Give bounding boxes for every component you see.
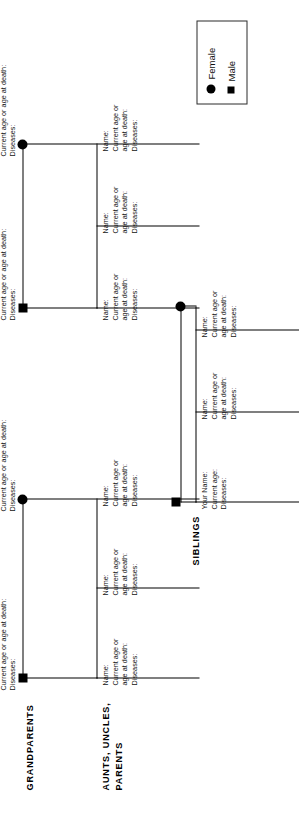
field-name-label: Name: bbox=[199, 367, 209, 419]
connector-couple-1-drop-left bbox=[22, 307, 97, 308]
field-age-label: Current age or age at death: bbox=[0, 228, 7, 320]
field-name-label: Name: bbox=[199, 285, 209, 337]
pedigree-chart-canvas: Name: Current age or age at death: Disea… bbox=[0, 0, 299, 816]
field-age-line-1: Current age or bbox=[110, 181, 120, 233]
field-diseases-label: Diseases: bbox=[129, 181, 139, 233]
person-fields-aunt-uncle-5: Name: Current age or age at death: Disea… bbox=[100, 543, 138, 595]
person-fields-aunt-uncle-2: Name: Current age or age at death: Disea… bbox=[100, 181, 138, 233]
field-diseases-label: Diseases: bbox=[218, 468, 228, 509]
field-age-label: Current age or age at death: bbox=[0, 419, 7, 511]
field-diseases-label: Diseases: bbox=[129, 454, 139, 506]
field-diseases-label: Diseases: bbox=[7, 419, 17, 511]
section-label-aunts-uncles: AUNTS, UNCLES, bbox=[100, 702, 110, 790]
field-age-line-1: Current age or bbox=[110, 633, 120, 685]
connector-parents-drop-right bbox=[180, 305, 196, 306]
field-diseases-label: Diseases: bbox=[228, 367, 238, 419]
field-age-line-1: Current age or bbox=[110, 99, 120, 151]
person-fields-aunt-uncle-6: Name: Current age or age at death: Disea… bbox=[100, 633, 138, 685]
field-name-label: Name: bbox=[100, 99, 110, 151]
person-fields-grandmother-2: Name: Current age or age at death: Disea… bbox=[0, 419, 17, 511]
square-icon bbox=[227, 86, 234, 93]
connector-couple-2-drop-left bbox=[22, 677, 97, 678]
person-fields-aunt-uncle-4: Name: Current age or age at death: Disea… bbox=[100, 454, 138, 506]
person-fields-sibling-1: Name: Current age or age at death: Disea… bbox=[199, 285, 237, 337]
connector-couple-2-drop-right bbox=[22, 498, 97, 499]
circle-icon bbox=[206, 84, 215, 93]
person-fields-grandmother-1: Name: Current age or age at death: Disea… bbox=[0, 64, 17, 156]
connector-couple-1-spouse-line bbox=[22, 144, 23, 308]
legend-label-male: Male bbox=[225, 60, 236, 81]
person-fields-aunt-uncle-3: Name: Current age or age at death: Disea… bbox=[100, 268, 138, 320]
field-your-name-label: Your Name: bbox=[199, 468, 209, 509]
legend-item-male: Male bbox=[225, 60, 236, 93]
legend-item-female: Female bbox=[205, 47, 216, 93]
field-diseases-label: Diseases: bbox=[228, 285, 238, 337]
field-diseases-label: Diseases: bbox=[7, 228, 17, 320]
field-age-line-2: age at death: bbox=[119, 181, 129, 233]
field-diseases-label: Diseases: bbox=[129, 268, 139, 320]
person-fields-self: Your Name: Current age: Diseases: bbox=[199, 468, 228, 509]
field-age-line-1: Current age or bbox=[110, 268, 120, 320]
field-age-label: Current age: bbox=[209, 468, 219, 509]
field-name-label: Name: bbox=[100, 633, 110, 685]
section-label-grandparents: GRANDPARENTS bbox=[24, 704, 34, 790]
field-name-label: Name: bbox=[100, 268, 110, 320]
person-fields-grandfather-1: Name: Current age or age at death: Disea… bbox=[0, 228, 17, 320]
field-diseases-label: Diseases: bbox=[7, 598, 17, 690]
field-name-label: Name: bbox=[100, 181, 110, 233]
person-symbol-father[interactable] bbox=[171, 497, 180, 506]
person-fields-grandfather-2: Name: Current age or age at death: Disea… bbox=[0, 598, 17, 690]
field-age-line-1: Current age or bbox=[110, 454, 120, 506]
person-fields-sibling-2: Name: Current age or age at death: Disea… bbox=[199, 367, 237, 419]
connector-couple-2-sibship-line bbox=[96, 499, 97, 678]
section-label-siblings: SIBLINGS bbox=[190, 515, 200, 565]
field-age-line-2: age at death: bbox=[119, 543, 129, 595]
field-age-line-2: age at death: bbox=[119, 454, 129, 506]
field-diseases-label: Diseases: bbox=[129, 99, 139, 151]
field-age-line-2: age at death: bbox=[218, 367, 228, 419]
field-name-label: Name: bbox=[100, 454, 110, 506]
field-age-line-1: Current age or bbox=[209, 285, 219, 337]
connector-siblings-sibship-line bbox=[195, 306, 196, 502]
connector-parents-spouse-line bbox=[180, 306, 181, 502]
field-name-label: Name: bbox=[100, 543, 110, 595]
field-age-line-1: Current age or bbox=[209, 367, 219, 419]
connector-parents-drop-left bbox=[180, 501, 196, 502]
field-age-line-2: age at death: bbox=[119, 99, 129, 151]
field-diseases-label: Diseases: bbox=[129, 633, 139, 685]
legend-box: Female Male bbox=[196, 20, 247, 104]
field-diseases-label: Diseases: bbox=[129, 543, 139, 595]
connector-couple-2-spouse-line bbox=[22, 499, 23, 678]
field-age-label: Current age or age at death: bbox=[0, 598, 7, 690]
field-age-line-2: age at death: bbox=[218, 285, 228, 337]
legend-label-female: Female bbox=[205, 47, 216, 79]
field-age-line-1: Current age or bbox=[110, 543, 120, 595]
person-fields-aunt-uncle-1: Name: Current age or age at death: Disea… bbox=[100, 99, 138, 151]
field-age-line-2: age at death: bbox=[119, 268, 129, 320]
field-age-line-2: age at death: bbox=[119, 633, 129, 685]
field-diseases-label: Diseases: bbox=[7, 64, 17, 156]
connector-couple-1-drop-right bbox=[22, 143, 97, 144]
section-label-parents: PARENTS bbox=[113, 741, 123, 790]
field-age-label: Current age or age at death: bbox=[0, 64, 7, 156]
